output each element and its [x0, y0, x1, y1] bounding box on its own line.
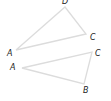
- vertex-label-d: D: [62, 0, 68, 6]
- vertex-label-a-bottom: A: [9, 63, 15, 72]
- triangles-diagram: D C A A C B: [0, 0, 111, 101]
- triangle-dca: [16, 7, 86, 50]
- vertex-label-a-top: A: [6, 49, 12, 58]
- vertex-label-b: B: [83, 86, 89, 95]
- vertex-label-c-top: C: [90, 33, 96, 42]
- triangle-acb: [22, 52, 92, 84]
- vertex-label-c-bottom: C: [95, 49, 101, 58]
